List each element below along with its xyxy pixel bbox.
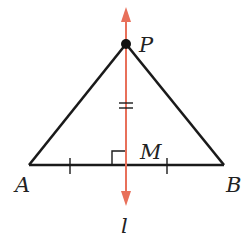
label-line-l: l [121, 214, 128, 238]
perpendicular-bisector-diagram: P A M B l [0, 0, 252, 239]
arrow-up-icon [121, 7, 131, 22]
arrow-down-icon [121, 191, 131, 206]
label-p: P [138, 33, 154, 57]
right-angle-marker [112, 151, 126, 165]
label-m: M [139, 140, 162, 164]
segment-pa [29, 44, 126, 165]
point-p [121, 39, 131, 49]
label-a: A [13, 173, 30, 197]
label-b: B [225, 173, 241, 197]
